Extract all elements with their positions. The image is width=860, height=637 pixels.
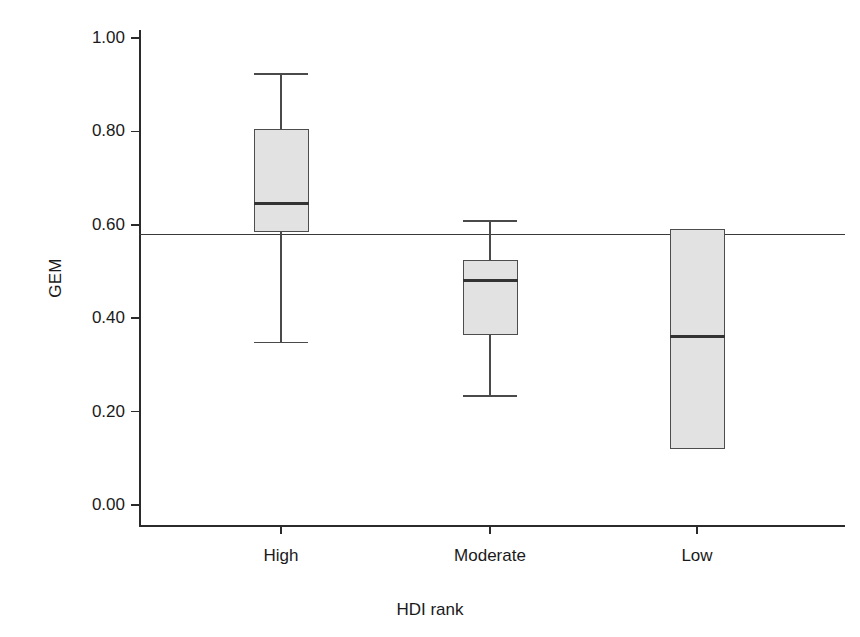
- lower-whisker-cap: [254, 342, 308, 344]
- y-tick-label: 1.00: [60, 29, 125, 46]
- box-iqr-rect: [254, 129, 309, 232]
- x-tick-mark: [696, 525, 698, 534]
- y-tick-mark: [131, 411, 140, 413]
- lower-whisker: [280, 232, 281, 342]
- y-axis-title: GEM: [46, 218, 66, 338]
- y-tick-mark: [131, 37, 140, 39]
- y-tick-label: 0.60: [60, 216, 125, 233]
- x-axis-title: HDI rank: [0, 600, 860, 620]
- x-tick-mark: [489, 525, 491, 534]
- upper-whisker-cap: [254, 73, 308, 75]
- y-tick-label: 0.20: [60, 403, 125, 420]
- x-axis-line: [139, 525, 845, 527]
- upper-whisker-cap: [463, 220, 517, 222]
- reference-line: [139, 234, 845, 235]
- x-tick-label-high: High: [264, 546, 299, 566]
- y-tick-label: 0.80: [60, 122, 125, 139]
- median-line: [670, 335, 725, 338]
- upper-whisker: [280, 73, 281, 129]
- y-tick-mark: [131, 131, 140, 133]
- lower-whisker-cap: [463, 395, 517, 397]
- box-plot-chart: 0.000.200.400.600.801.00 HighModerateLow…: [0, 0, 860, 637]
- upper-whisker: [489, 220, 490, 260]
- lower-whisker: [489, 335, 490, 396]
- y-tick-mark: [131, 504, 140, 506]
- y-axis-line: [139, 30, 141, 527]
- x-tick-label-moderate: Moderate: [454, 546, 526, 566]
- median-line: [463, 279, 518, 282]
- y-tick-mark: [131, 317, 140, 319]
- x-tick-mark: [280, 525, 282, 534]
- y-tick-mark: [131, 224, 140, 226]
- box-iqr-rect: [463, 260, 518, 335]
- box-iqr-rect: [670, 229, 725, 448]
- y-tick-label: 0.40: [60, 309, 125, 326]
- y-tick-label: 0.00: [60, 496, 125, 513]
- median-line: [254, 202, 309, 205]
- x-tick-label-low: Low: [681, 546, 712, 566]
